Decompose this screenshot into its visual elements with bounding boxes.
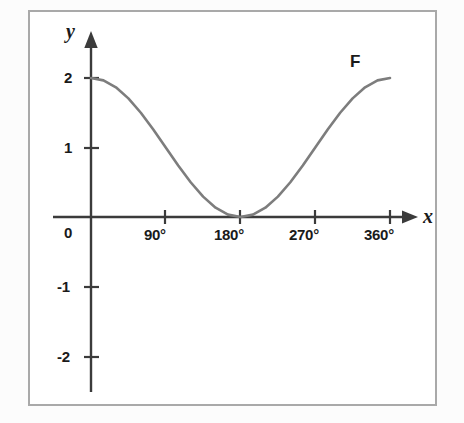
- y-tick-label-2: 2: [64, 69, 72, 86]
- x-axis-label: x: [423, 205, 433, 228]
- y-axis-arrow-icon: [84, 31, 97, 48]
- curve-label-F: F: [350, 52, 360, 72]
- x-tick-label-180: 180°: [214, 226, 244, 243]
- x-tick-label-270: 270°: [289, 226, 319, 243]
- chart-screenshot: 2 1 -1 -2 0 90° 180° 270° 360° y x F: [0, 0, 464, 423]
- x-tick-label-90: 90°: [144, 226, 166, 243]
- x-axis-arrow-icon: [402, 211, 418, 224]
- y-axis-label: y: [66, 20, 75, 43]
- x-tick-label-0: 0: [64, 224, 72, 241]
- y-tick-label-neg2: -2: [57, 348, 70, 365]
- y-tick-label-neg1: -1: [57, 278, 70, 295]
- y-tick-label-1: 1: [64, 139, 72, 156]
- data-curve-F: [91, 78, 390, 217]
- x-tick-label-360: 360°: [364, 226, 394, 243]
